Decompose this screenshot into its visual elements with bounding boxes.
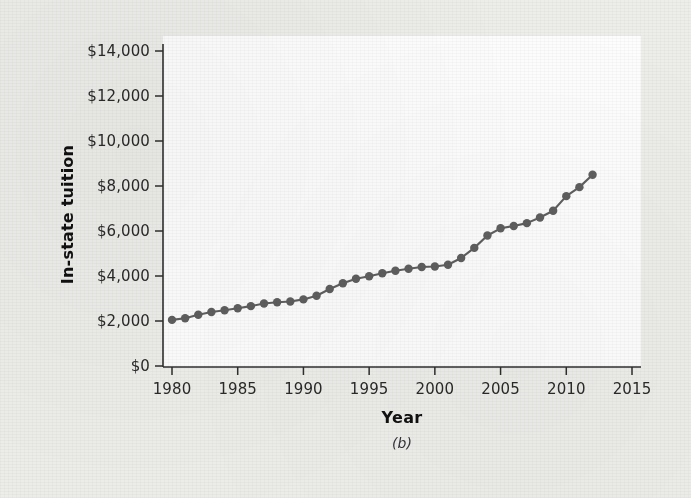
x-axis-tick-label: 2015 xyxy=(613,380,652,398)
x-axis-tick-label: 1990 xyxy=(284,380,323,398)
y-axis-tick-label: $8,000 xyxy=(40,177,150,195)
x-axis-tick-label: 2005 xyxy=(481,380,520,398)
panel-caption: (b) xyxy=(163,435,641,451)
x-axis-tick-label: 1980 xyxy=(153,380,192,398)
data-point xyxy=(431,262,439,270)
x-axis-ticks xyxy=(172,367,632,375)
data-point xyxy=(588,171,596,179)
y-axis-tick-label: $12,000 xyxy=(40,87,150,105)
data-point xyxy=(536,213,544,221)
data-point xyxy=(207,308,215,316)
y-axis-tick-label: $2,000 xyxy=(40,312,150,330)
x-axis-tick-label: 1995 xyxy=(350,380,389,398)
tuition-trend-line xyxy=(172,175,593,320)
data-point xyxy=(220,306,228,314)
figure-panel: $0$2,000$4,000$6,000$8,000$10,000$12,000… xyxy=(0,0,691,498)
data-point xyxy=(378,269,386,277)
y-axis-ticks xyxy=(155,51,163,366)
data-point xyxy=(234,304,242,312)
x-axis-title: Year xyxy=(163,408,641,427)
data-point xyxy=(457,254,465,262)
data-point xyxy=(510,222,518,230)
data-point xyxy=(549,207,557,215)
y-axis-tick-label: $14,000 xyxy=(40,42,150,60)
data-point xyxy=(575,183,583,191)
data-point xyxy=(260,299,268,307)
y-axis-tick-label: $6,000 xyxy=(40,222,150,240)
data-point xyxy=(562,192,570,200)
data-point xyxy=(444,261,452,269)
data-point xyxy=(352,275,360,283)
data-point xyxy=(365,272,373,280)
y-axis-tick-label: $4,000 xyxy=(40,267,150,285)
y-axis-title: In-state tuition xyxy=(58,115,77,315)
data-point xyxy=(470,244,478,252)
data-point xyxy=(339,279,347,287)
data-point xyxy=(418,263,426,271)
y-axis-tick-label: $10,000 xyxy=(40,132,150,150)
data-point xyxy=(312,292,320,300)
data-point xyxy=(273,298,281,306)
data-point xyxy=(168,316,176,324)
x-axis-tick-label: 1985 xyxy=(218,380,257,398)
axes xyxy=(163,44,641,367)
data-point xyxy=(404,265,412,273)
data-point xyxy=(496,224,504,232)
data-point xyxy=(194,311,202,319)
data-point xyxy=(391,267,399,275)
data-point xyxy=(299,295,307,303)
y-axis-tick-label: $0 xyxy=(40,357,150,375)
data-point xyxy=(247,302,255,310)
tuition-data-points xyxy=(168,171,597,325)
x-axis-tick-label: 2000 xyxy=(416,380,455,398)
x-axis-tick-label: 2010 xyxy=(547,380,586,398)
data-point xyxy=(483,231,491,239)
data-point xyxy=(181,314,189,322)
data-point xyxy=(326,285,334,293)
data-point xyxy=(523,219,531,227)
data-point xyxy=(286,297,294,305)
